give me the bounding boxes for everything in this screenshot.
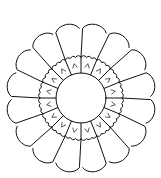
petal [81,24,106,57]
band-ornament [111,102,115,106]
band-ornament [73,128,77,132]
band-ornament [47,102,51,106]
petal [56,24,80,60]
rosette-drawing [0,0,161,178]
band-divider [43,108,58,114]
band-divider [43,82,58,88]
band-ornament [62,123,66,128]
band-ornament [106,113,111,117]
band-ornament [111,90,115,94]
band-ornament [96,69,100,74]
petal [83,136,107,172]
petal [119,73,155,97]
outer-petal-ring [7,24,155,172]
band-ornament [62,69,66,74]
center-circle [56,73,106,123]
petal [33,33,53,69]
petal [16,126,52,146]
petal [7,100,43,124]
band-divider [91,60,97,75]
petal [7,73,40,98]
band-divider [104,82,119,88]
band-ornament [73,64,77,68]
band-divider [65,60,71,75]
band-ornament [52,79,57,83]
petal [122,98,155,123]
petal [110,50,146,70]
band-ornament [106,79,111,83]
petal [56,139,81,172]
band-divider [104,108,119,114]
band-ornament [52,113,57,117]
band-ornament [85,64,89,68]
band-divider [65,121,71,136]
band-ornament [96,123,100,128]
band-divider [91,121,97,136]
band-ornament [85,128,89,132]
petal [109,127,129,163]
band-ornament [47,90,51,94]
